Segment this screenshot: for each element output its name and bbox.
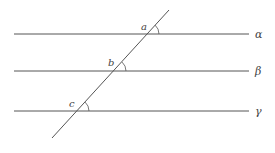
angle-arc-c: [85, 102, 89, 111]
angle-arc-b: [122, 62, 126, 71]
angle-label-b: b: [108, 57, 114, 68]
angle-label-c: c: [69, 98, 75, 109]
angle-arc-a: [155, 25, 159, 34]
angle-label-a: a: [141, 21, 147, 32]
line-label-beta: β: [254, 65, 261, 78]
line-label-gamma: γ: [255, 105, 262, 118]
parallel-lines-diagram: a b c α β γ: [0, 0, 275, 153]
line-label-alpha: α: [255, 28, 263, 41]
transversal-line: [52, 10, 169, 138]
